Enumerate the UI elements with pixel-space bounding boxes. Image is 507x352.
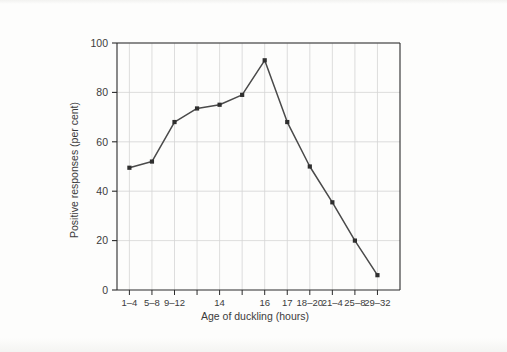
data-point-marker (353, 239, 357, 243)
x-tick-label: 21–4 (322, 297, 343, 308)
x-axis-tick-labels: 1–45–89–1214161718–2021–425–829–32 (121, 297, 390, 308)
y-tick-label: 100 (90, 37, 108, 49)
plot-frame (117, 43, 400, 290)
scan-edge-bottom (0, 338, 507, 352)
data-point-marker (172, 120, 176, 124)
gridlines-vertical (129, 43, 377, 290)
y-tick-label: 40 (96, 185, 108, 197)
x-tick-label: 29–32 (364, 297, 390, 308)
data-point-marker (195, 106, 199, 110)
data-point-marker (308, 164, 312, 168)
y-axis-ticks (112, 43, 117, 290)
data-point-marker (285, 120, 289, 124)
y-axis-tick-labels: 020406080100 (90, 37, 108, 296)
y-tick-label: 80 (96, 86, 108, 98)
scan-edge-top (0, 0, 507, 4)
y-tick-label: 20 (96, 234, 108, 246)
line-chart-svg: 020406080100 1–45–89–1214161718–2021–425… (0, 0, 507, 352)
data-point-marker (263, 58, 267, 62)
x-tick-label: 16 (259, 297, 270, 308)
data-point-marker (330, 200, 334, 204)
data-point-marker (375, 273, 379, 277)
y-axis-title: Positive responses (per cent) (68, 102, 80, 238)
data-point-marker (218, 103, 222, 107)
y-tick-label: 0 (102, 284, 108, 296)
x-tick-label: 17 (282, 297, 293, 308)
x-tick-label: 25–8 (344, 297, 365, 308)
data-point-markers (127, 58, 379, 277)
gridlines-horizontal (117, 43, 400, 241)
chart-figure: 020406080100 1–45–89–1214161718–2021–425… (0, 0, 507, 352)
data-point-marker (150, 159, 154, 163)
y-tick-label: 60 (96, 136, 108, 148)
x-tick-label: 5–8 (144, 297, 160, 308)
x-tick-label: 18–20 (297, 297, 323, 308)
data-point-marker (240, 93, 244, 97)
x-axis-title: Age of duckling (hours) (201, 310, 309, 322)
data-point-marker (127, 166, 131, 170)
x-tick-label: 9–12 (164, 297, 185, 308)
x-axis-ticks (129, 290, 377, 295)
x-tick-label: 14 (214, 297, 225, 308)
x-tick-label: 1–4 (121, 297, 137, 308)
